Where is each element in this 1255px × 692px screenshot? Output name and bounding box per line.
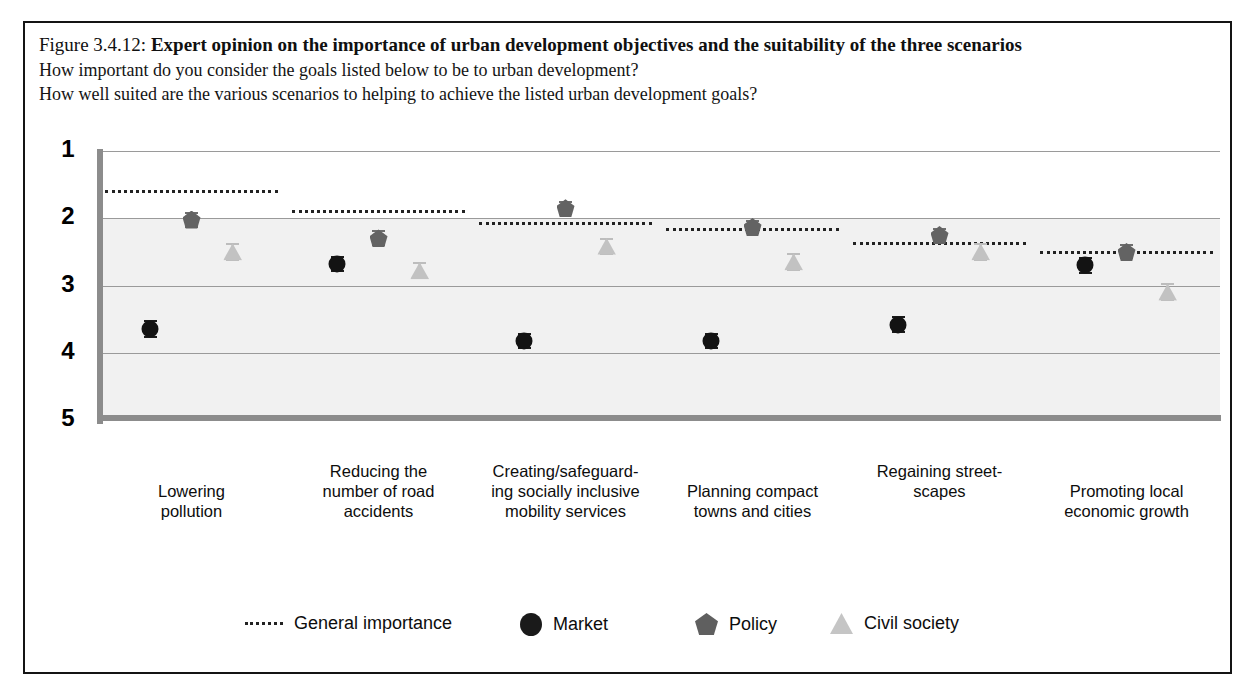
figure-frame: Figure 3.4.12: Expert opinion on the imp… xyxy=(23,21,1232,674)
category-label-line: pollution xyxy=(96,501,287,521)
general-importance-segment xyxy=(105,190,277,193)
market-marker xyxy=(329,255,346,272)
general-importance-segment xyxy=(479,222,651,225)
category-label: Reducing thenumber of roadaccidents xyxy=(283,461,474,521)
market-marker xyxy=(142,321,159,338)
category-label-line: Lowering xyxy=(96,481,287,501)
dotted-line-icon xyxy=(245,622,283,625)
legend-item-policy[interactable]: Policy xyxy=(695,613,777,635)
category-label-line: Creating/safeguard- xyxy=(470,461,661,481)
category-label-line: Regaining street- xyxy=(844,461,1035,481)
category-label-line: Planning compact xyxy=(657,481,848,501)
y-tick-label: 2 xyxy=(51,202,85,230)
category-label-line: mobility services xyxy=(470,501,661,521)
y-tick-label: 1 xyxy=(51,135,85,163)
y-tick-label: 3 xyxy=(51,270,85,298)
chart-plot: 12345 LoweringpollutionReducing thenumbe… xyxy=(25,23,1234,676)
gridline-4 xyxy=(98,353,1220,354)
gridline-1 xyxy=(98,151,1220,152)
market-marker xyxy=(1077,257,1094,274)
category-label: Regaining street-scapes xyxy=(844,461,1035,501)
category-label-line: economic growth xyxy=(1031,501,1222,521)
category-label-line: scapes xyxy=(844,481,1035,501)
legend-label: Civil society xyxy=(864,613,959,634)
legend-label: Market xyxy=(553,614,608,635)
category-label: Promoting localeconomic growth xyxy=(1031,481,1222,521)
plot-shaded-band xyxy=(98,218,1220,420)
y-axis-spine xyxy=(97,149,103,424)
category-label-line: towns and cities xyxy=(657,501,848,521)
x-axis-spine xyxy=(97,415,1221,421)
gridline-2 xyxy=(98,218,1220,219)
y-tick-label: 5 xyxy=(51,404,85,432)
market-marker xyxy=(890,316,907,333)
category-label-line: Promoting local xyxy=(1031,481,1222,501)
category-label-line: Reducing the xyxy=(283,461,474,481)
category-label-line: ing socially inclusive xyxy=(470,481,661,501)
y-tick-label: 4 xyxy=(51,337,85,365)
circle-icon xyxy=(520,613,542,636)
gridline-3 xyxy=(98,286,1220,287)
general-importance-segment xyxy=(292,210,464,213)
legend-label: Policy xyxy=(729,614,777,635)
pentagon-icon xyxy=(695,613,718,635)
legend-item-civil-society[interactable]: Civil society xyxy=(830,613,959,634)
market-marker xyxy=(703,332,720,349)
category-label: Creating/safeguard-ing socially inclusiv… xyxy=(470,461,661,521)
category-label: Planning compacttowns and cities xyxy=(657,481,848,521)
legend-item-general-importance[interactable]: General importance xyxy=(245,613,452,634)
category-label-line: number of road xyxy=(283,481,474,501)
chart-legend: General importanceMarketPolicyCivil soci… xyxy=(25,613,1234,653)
category-label: Loweringpollution xyxy=(96,481,287,521)
triangle-icon xyxy=(830,613,853,634)
legend-label: General importance xyxy=(294,613,452,634)
market-marker xyxy=(516,333,533,350)
legend-item-market[interactable]: Market xyxy=(520,613,608,636)
category-label-line: accidents xyxy=(283,501,474,521)
